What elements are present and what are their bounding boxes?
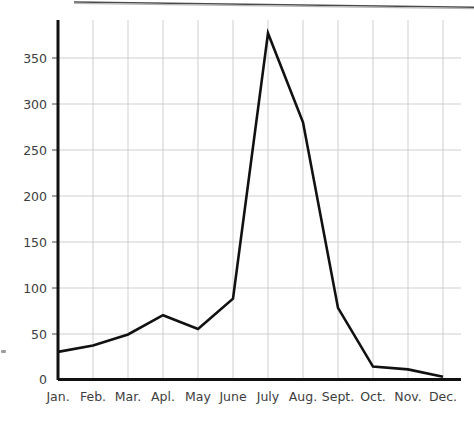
y-tick-label: 200 xyxy=(23,189,47,204)
x-tick-label-may: May xyxy=(185,389,211,404)
x-tick-label-mar: Mar. xyxy=(115,389,141,404)
y-tick-label: 50 xyxy=(31,327,47,342)
y-tick-label: 100 xyxy=(23,281,47,296)
y-tick-labels: 350 300 250 200 150 100 50 0 xyxy=(23,51,47,387)
x-tick-label-july: July xyxy=(256,389,280,404)
x-tick-label-dec: Dec. xyxy=(429,389,457,404)
y-tick-label: 350 xyxy=(23,51,47,66)
x-tick-label-feb: Feb. xyxy=(80,389,106,404)
data-line-series-1 xyxy=(58,33,443,377)
x-tick-label-sept: Sept. xyxy=(322,389,354,404)
chart-page: 350 300 250 200 150 100 50 0 Jan. Feb. M… xyxy=(0,0,474,427)
x-tick-label-aug: Aug. xyxy=(289,389,317,404)
x-tick-label-apl: Apl. xyxy=(151,389,175,404)
vertical-gridlines xyxy=(58,20,443,379)
x-tick-label-nov: Nov. xyxy=(394,389,421,404)
line-chart: 350 300 250 200 150 100 50 0 Jan. Feb. M… xyxy=(0,0,474,427)
y-tick-label: 250 xyxy=(23,143,47,158)
y-tick-label: 300 xyxy=(23,97,47,112)
x-tick-labels: Jan. Feb. Mar. Apl. May June July Aug. S… xyxy=(45,389,457,404)
y-tick-label: 150 xyxy=(23,235,47,250)
x-tick-label-oct: Oct. xyxy=(360,389,386,404)
y-tick-label: 0 xyxy=(39,372,47,387)
x-tick-label-june: June xyxy=(218,389,247,404)
x-tick-label-jan: Jan. xyxy=(45,389,69,404)
